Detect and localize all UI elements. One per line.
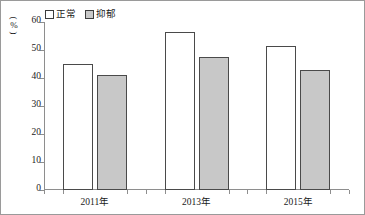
plot-area: 0102030405060 2011年2013年2015年 bbox=[44, 22, 349, 190]
legend-label-normal: 正常 bbox=[56, 10, 76, 20]
y-tick-label: 60 bbox=[32, 16, 42, 26]
legend-item-depressed: 抑郁 bbox=[85, 10, 116, 20]
bar-chart-figure: 正常 抑郁 ( % ) 0102030405060 2011年2013年2015… bbox=[0, 0, 365, 215]
x-tick-label: 2015年 bbox=[284, 198, 313, 208]
x-tick-label: 2013年 bbox=[182, 198, 211, 208]
x-tick-mark bbox=[63, 190, 64, 194]
bar-2013年-正常 bbox=[165, 32, 195, 190]
x-tick-mark bbox=[266, 190, 267, 194]
y-axis-line bbox=[44, 22, 45, 190]
y-tick-label: 10 bbox=[32, 156, 42, 166]
y-axis-paren-open: ( bbox=[11, 12, 17, 24]
x-tick-mark bbox=[229, 190, 230, 194]
bar-2011年-抑郁 bbox=[97, 75, 127, 190]
x-tick-mark bbox=[165, 190, 166, 194]
x-tick-mark bbox=[44, 190, 45, 194]
x-tick-mark bbox=[146, 190, 147, 194]
x-tick-mark bbox=[330, 190, 331, 194]
bar-2015年-正常 bbox=[266, 46, 296, 190]
chart-legend: 正常 抑郁 bbox=[45, 10, 116, 20]
y-tick-label: 0 bbox=[36, 184, 41, 194]
y-axis-title: ( % ) bbox=[8, 15, 20, 36]
y-tick-label: 40 bbox=[32, 72, 42, 82]
y-tick-label: 20 bbox=[32, 128, 42, 138]
bar-2013年-抑郁 bbox=[199, 57, 229, 190]
legend-item-normal: 正常 bbox=[45, 10, 76, 20]
x-tick-label: 2011年 bbox=[81, 198, 110, 208]
y-tick-label: 50 bbox=[32, 44, 42, 54]
y-tick-label: 30 bbox=[32, 100, 42, 110]
bar-2015年-抑郁 bbox=[300, 70, 330, 190]
legend-label-depressed: 抑郁 bbox=[96, 10, 116, 20]
x-tick-mark bbox=[127, 190, 128, 194]
bar-2011年-正常 bbox=[63, 64, 93, 190]
x-tick-mark bbox=[349, 190, 350, 194]
legend-swatch-normal-icon bbox=[45, 10, 54, 19]
y-axis-paren-close: ) bbox=[11, 27, 17, 39]
x-tick-mark bbox=[247, 190, 248, 194]
legend-swatch-depressed-icon bbox=[85, 10, 94, 19]
